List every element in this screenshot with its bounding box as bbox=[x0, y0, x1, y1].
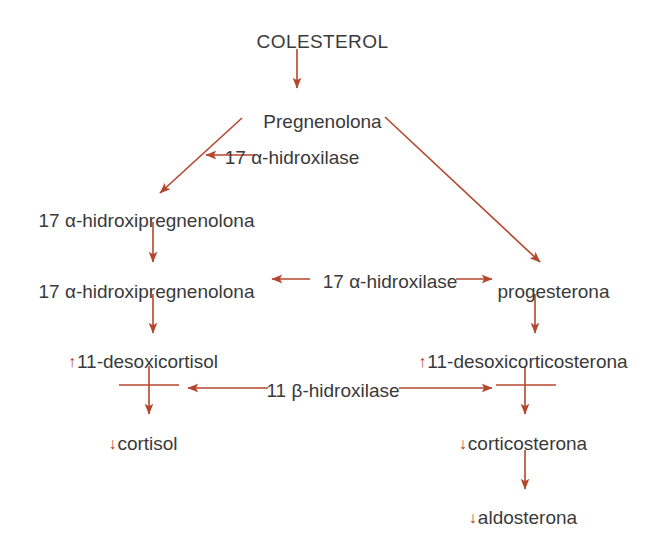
node-11-desoxicorticosterona-label: 11-desoxicorticosterona bbox=[427, 351, 627, 372]
node-11-desoxicorticosterona: ↑11-desoxicorticosterona bbox=[418, 352, 627, 371]
node-colesterol: COLESTEROL bbox=[256, 32, 389, 51]
node-progesterona-label: progesterona bbox=[498, 281, 610, 302]
arrow-pregnenolona-to-progesterona bbox=[385, 117, 540, 262]
node-pregnenolona: Pregnenolona bbox=[262, 112, 381, 131]
node-17a-hidroxipregnenolona-1-label: 17 α-hidroxipregnenolona bbox=[39, 210, 255, 231]
node-11-desoxicortisol-label: 11-desoxicortisol bbox=[77, 351, 218, 372]
node-aldosterona-decrease-icon: ↓ bbox=[469, 510, 477, 526]
enzyme-11b-hidroxilase: 11 β-hidroxilase bbox=[266, 381, 399, 400]
node-aldosterona: ↓aldosterona bbox=[469, 508, 577, 527]
node-17a-hidroxipregnenolona-1: 17 α-hidroxipregnenolona bbox=[38, 211, 255, 230]
node-11-desoxicortisol-increase-icon: ↑ bbox=[68, 354, 76, 370]
enzyme-17a-hidroxilase-top: 17 α-hidroxilase bbox=[225, 148, 360, 167]
node-17a-hidroxipregnenolona-2: 17 α-hidroxipregnenolona bbox=[38, 282, 255, 301]
node-progesterona: progesterona bbox=[497, 282, 610, 301]
node-cortisol-label: cortisol bbox=[117, 433, 177, 454]
node-11-desoxicorticosterona-increase-icon: ↑ bbox=[418, 354, 426, 370]
node-17a-hidroxipregnenolona-2-label: 17 α-hidroxipregnenolona bbox=[39, 281, 255, 302]
enzyme-17a-hidroxilase-middle: 17 α-hidroxilase bbox=[323, 272, 458, 291]
node-colesterol-label: COLESTEROL bbox=[257, 31, 389, 52]
node-cortisol: ↓cortisol bbox=[108, 434, 177, 453]
node-pregnenolona-label: Pregnenolona bbox=[263, 111, 381, 132]
node-aldosterona-label: aldosterona bbox=[478, 507, 577, 528]
node-cortisol-decrease-icon: ↓ bbox=[108, 436, 116, 452]
node-corticosterona-label: corticosterona bbox=[468, 433, 587, 454]
node-corticosterona-decrease-icon: ↓ bbox=[459, 436, 467, 452]
node-corticosterona: ↓corticosterona bbox=[459, 434, 587, 453]
node-11-desoxicortisol: ↑11-desoxicortisol bbox=[68, 352, 218, 371]
steroidogenesis-diagram: COLESTEROL Pregnenolona 17 α-hidroxipreg… bbox=[0, 0, 658, 543]
